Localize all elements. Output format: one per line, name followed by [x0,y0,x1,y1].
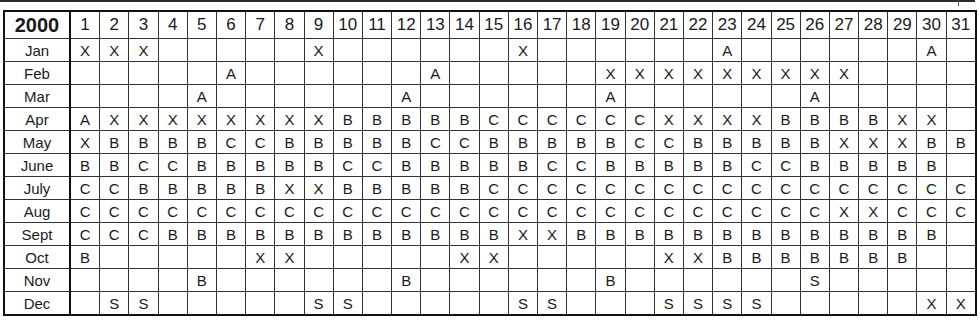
day-cell: X [859,200,888,223]
day-cell [450,269,479,292]
day-cell: A [392,85,421,108]
day-cell: B [333,177,362,200]
day-cell [392,39,421,62]
day-cell [596,292,625,316]
day-cell [654,269,683,292]
year-heading: 2000 [4,11,70,39]
day-cell [567,85,596,108]
day-cell: C [538,154,567,177]
day-cell: C [508,200,537,223]
day-cell: B [362,108,391,131]
day-cell: S [654,292,683,316]
day-cell [304,62,333,85]
day-cell: X [538,223,567,246]
day-cell: B [859,246,888,269]
day-cell: X [508,39,537,62]
day-cell: X [829,131,858,154]
day-cell: C [625,108,654,131]
day-cell: B [392,223,421,246]
day-heading: 23 [713,11,742,39]
day-cell [859,39,888,62]
day-cell: A [800,85,829,108]
day-cell [158,246,187,269]
day-cell: B [888,223,917,246]
day-cell: C [304,200,333,223]
day-cell [362,246,391,269]
day-cell: C [742,200,771,223]
day-cell: X [450,246,479,269]
day-cell [946,108,976,131]
day-cell: B [713,223,742,246]
day-cell: B [421,108,450,131]
day-cell: C [333,154,362,177]
day-cell [829,292,858,316]
day-cell: A [596,85,625,108]
day-cell [625,85,654,108]
day-cell [362,85,391,108]
day-cell [70,292,100,316]
day-cell: B [304,154,333,177]
day-cell: C [742,177,771,200]
day-cell: B [333,131,362,154]
day-cell: C [70,177,100,200]
day-cell [450,62,479,85]
month-label: May [4,131,70,154]
day-cell: C [158,154,187,177]
day-cell [800,39,829,62]
day-cell: B [771,131,800,154]
month-row: DecSSSSSSSSSSXX [4,292,976,316]
day-cell [771,292,800,316]
day-cell: S [508,292,537,316]
day-cell [421,246,450,269]
day-cell: X [479,246,508,269]
day-cell: B [304,131,333,154]
day-cell: S [538,292,567,316]
day-cell: X [246,246,275,269]
day-heading: 19 [596,11,625,39]
day-cell: X [187,108,216,131]
day-cell: B [216,223,245,246]
day-cell: C [596,200,625,223]
day-cell: S [742,292,771,316]
day-cell [421,269,450,292]
month-label: Oct [4,246,70,269]
day-cell [392,246,421,269]
day-cell [362,39,391,62]
day-cell [538,85,567,108]
day-cell: C [421,131,450,154]
day-cell: S [100,292,129,316]
day-heading: 21 [654,11,683,39]
day-cell [538,39,567,62]
day-heading: 26 [800,11,829,39]
day-cell: X [654,108,683,131]
day-cell: B [508,154,537,177]
month-label: Jan [4,39,70,62]
day-cell [246,39,275,62]
day-cell [829,269,858,292]
day-cell: C [888,200,917,223]
day-cell: C [275,200,304,223]
day-cell: C [129,154,158,177]
day-cell [450,292,479,316]
day-cell: X [625,62,654,85]
day-cell: X [100,39,129,62]
day-cell: C [713,177,742,200]
day-cell: B [129,177,158,200]
month-label: Sept [4,223,70,246]
day-cell [654,39,683,62]
day-cell: B [187,223,216,246]
day-cell: X [917,108,946,131]
day-cell: A [70,108,100,131]
day-cell: B [275,131,304,154]
day-cell: C [800,200,829,223]
day-cell [888,85,917,108]
day-cell [683,39,712,62]
day-cell: B [713,154,742,177]
day-cell: C [129,223,158,246]
day-cell [508,62,537,85]
day-cell: X [771,62,800,85]
day-cell: B [392,269,421,292]
day-cell: X [654,246,683,269]
day-cell: C [567,108,596,131]
day-cell: C [100,223,129,246]
